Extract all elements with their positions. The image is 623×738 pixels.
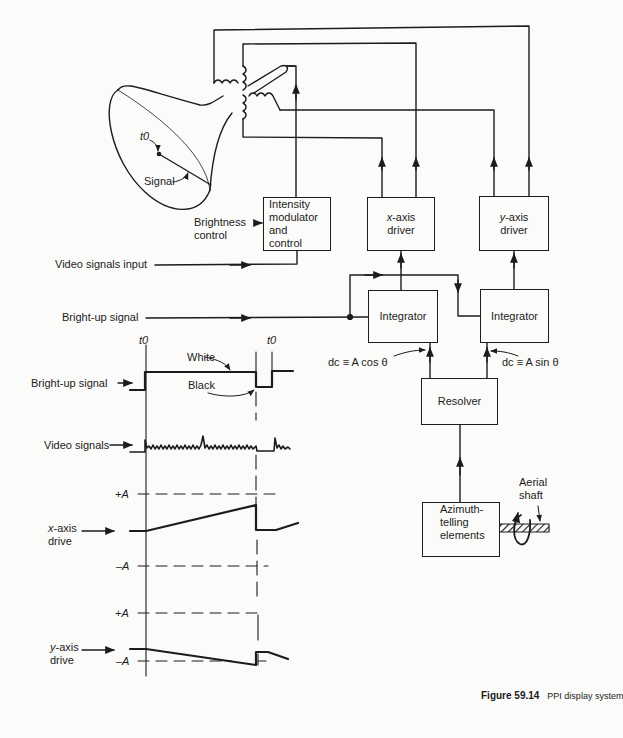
brightness-control-label: Brightnesscontrol — [194, 216, 246, 242]
intensity-line-1: Intensity — [269, 198, 310, 211]
video-signals-waveform — [130, 436, 290, 452]
azimuth-line-1: Azimuth- — [440, 503, 483, 516]
intensity-line-4: control — [269, 237, 302, 250]
x-driver-line-2: driver — [387, 224, 415, 237]
x-driver-line-1: x-axis — [387, 211, 416, 224]
integrator-x-block: Integrator — [368, 290, 438, 343]
crt-signal-label: Signal — [144, 175, 175, 188]
resolver-block: Resolver — [421, 378, 498, 425]
azimuth-telling-block: Azimuth- telling elements — [422, 502, 500, 557]
intensity-modulator-block: Intensity modulator and control — [263, 197, 331, 251]
x-driver-axis: -axis — [392, 211, 415, 223]
y-drive-line-2: drive — [50, 654, 79, 667]
aerial-line-1: Aerial — [519, 476, 547, 489]
brightness-line-2: control — [194, 229, 246, 242]
timing-row-x-drive: x-axis drive — [48, 522, 77, 548]
deflection-coils — [214, 65, 295, 119]
y-driver-line-1: y-axis — [500, 211, 529, 224]
y-plus-a-label: +A — [115, 607, 129, 620]
intensity-line-2: modulator — [269, 211, 318, 224]
x-axis-driver-block: x-axis driver — [367, 197, 435, 251]
x-drive-line-2: drive — [48, 535, 77, 548]
sin-output-label: dc ≡ A sin θ — [502, 356, 559, 369]
figure-number: Figure 59.14 — [481, 690, 539, 701]
aerial-shaft-label: Aerialshaft — [519, 476, 547, 502]
y-drive-axis: -axis — [56, 641, 79, 653]
crt-t0-label: t0 — [140, 130, 149, 143]
bright-up-signal-label: Bright-up signal — [62, 311, 138, 324]
video-signals-input-label: Video signals input — [55, 258, 147, 271]
timing-t0-right: t0 — [267, 334, 276, 347]
video-input-line — [155, 251, 297, 265]
aerial-shaft — [499, 524, 549, 532]
y-driver-line-2: driver — [500, 224, 528, 237]
y-axis-driver-block: y-axis driver — [479, 196, 549, 251]
x-axis-drive-waveform — [130, 505, 298, 531]
timing-row-y-drive: y-axis drive — [50, 641, 79, 667]
black-label: Black — [188, 379, 215, 392]
x-plus-a-label: +A — [115, 488, 129, 501]
y-drive-line-1: y-axis — [50, 641, 79, 654]
figure-caption: Figure 59.14PPI display system — [481, 689, 623, 703]
cos-output-label: dc ≡ A cos θ — [328, 356, 388, 369]
bright-up-line — [146, 317, 368, 318]
timing-row-video: Video signals — [44, 439, 109, 452]
coil-wiring — [214, 26, 529, 197]
x-minus-a-label: –A — [116, 560, 129, 573]
timing-diagram — [82, 345, 298, 676]
brightness-line-1: Brightness — [194, 216, 246, 229]
y-driver-axis: -axis — [505, 211, 528, 223]
white-label: White — [187, 351, 215, 364]
aerial-line-2: shaft — [519, 489, 547, 502]
azimuth-line-2: telling — [440, 516, 469, 529]
intensity-line-3: and — [269, 224, 287, 237]
crt-tube — [109, 86, 232, 210]
timing-t0-left: t0 — [139, 334, 148, 347]
intensity-to-gun — [287, 66, 296, 197]
y-minus-a-label: –A — [116, 655, 129, 668]
y-axis-drive-waveform — [130, 649, 288, 665]
figure-title: PPI display system — [547, 691, 623, 701]
x-drive-axis: -axis — [54, 522, 77, 534]
x-drive-line-1: x-axis — [48, 522, 77, 535]
timing-row-bright-up: Bright-up signal — [31, 377, 107, 390]
azimuth-line-3: elements — [440, 529, 485, 542]
integrator-y-block: Integrator — [480, 289, 549, 343]
